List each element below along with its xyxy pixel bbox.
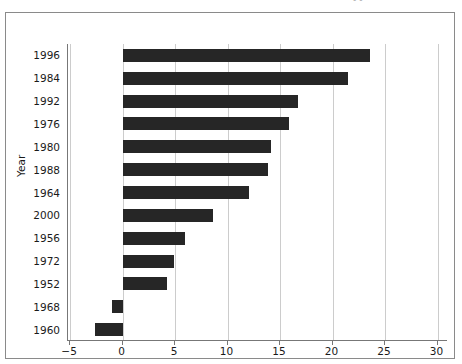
bar-1980 bbox=[123, 140, 271, 153]
y-tick-label-1960: 1960 bbox=[20, 320, 60, 340]
x-tick-label-5: 5 bbox=[171, 345, 178, 357]
y-tick-label-1956: 1956 bbox=[20, 228, 60, 248]
x-tick-label--5: −5 bbox=[61, 345, 76, 357]
bar-row bbox=[68, 204, 447, 227]
x-axis-tick-labels: −5051015202530 bbox=[67, 345, 447, 364]
bar-1968 bbox=[112, 300, 122, 313]
x-tick-label-20: 20 bbox=[325, 345, 338, 357]
bar-2000 bbox=[123, 209, 213, 222]
bar-1972 bbox=[123, 255, 174, 268]
bar-row bbox=[68, 67, 447, 90]
bar-1960 bbox=[95, 323, 122, 336]
bar-1964 bbox=[123, 186, 249, 199]
bar-row bbox=[68, 44, 447, 67]
bar-row bbox=[68, 227, 447, 250]
y-tick-label-1972: 1972 bbox=[20, 251, 60, 271]
bar-row bbox=[68, 113, 447, 136]
bar-row bbox=[68, 90, 447, 113]
figure-frame: Year 19961984199219761980198819642000195… bbox=[5, 12, 455, 359]
x-tick-label-30: 30 bbox=[430, 345, 443, 357]
y-tick-label-1996: 1996 bbox=[20, 45, 60, 65]
bar-row bbox=[68, 272, 447, 295]
y-tick-label-1952: 1952 bbox=[20, 274, 60, 294]
x-tick-label-0: 0 bbox=[118, 345, 125, 357]
x-tick-label-25: 25 bbox=[377, 345, 390, 357]
bar-1952 bbox=[123, 277, 167, 290]
bar-1996 bbox=[123, 49, 371, 62]
bar-1984 bbox=[123, 72, 349, 85]
bar-row bbox=[68, 135, 447, 158]
bar-row bbox=[68, 295, 447, 318]
bar-1976 bbox=[123, 117, 290, 130]
top-cutoff-artifact: •• bbox=[352, 0, 374, 5]
y-tick-label-1980: 1980 bbox=[20, 137, 60, 157]
bar-row bbox=[68, 181, 447, 204]
y-tick-label-1968: 1968 bbox=[20, 297, 60, 317]
bar-1988 bbox=[123, 163, 269, 176]
plot-area bbox=[67, 44, 447, 341]
y-tick-label-2000: 2000 bbox=[20, 205, 60, 225]
x-tick-label-10: 10 bbox=[220, 345, 233, 357]
bar-1992 bbox=[123, 95, 298, 108]
x-tick-label-15: 15 bbox=[272, 345, 285, 357]
bar-row bbox=[68, 318, 447, 341]
y-tick-label-1988: 1988 bbox=[20, 160, 60, 180]
bar-row bbox=[68, 158, 447, 181]
bar-row bbox=[68, 250, 447, 273]
chart-figure: •• Year 19961984199219761980198819642000… bbox=[0, 0, 462, 364]
y-tick-label-1976: 1976 bbox=[20, 114, 60, 134]
bar-1956 bbox=[123, 232, 185, 245]
y-tick-label-1964: 1964 bbox=[20, 183, 60, 203]
y-tick-label-1984: 1984 bbox=[20, 68, 60, 88]
y-tick-label-1992: 1992 bbox=[20, 91, 60, 111]
